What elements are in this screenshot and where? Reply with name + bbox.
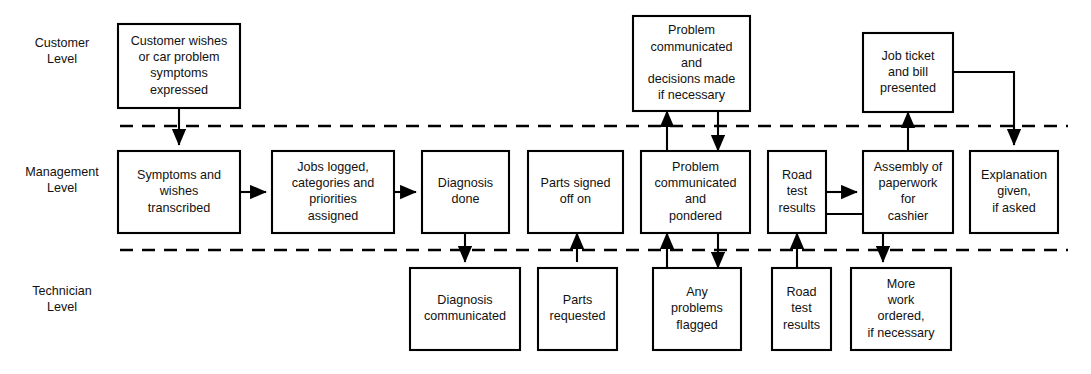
- node-label-line: done: [451, 192, 479, 206]
- node-label-line: Road: [786, 285, 816, 299]
- node-label-line: priorities: [309, 192, 357, 206]
- node-label-line: and: [685, 192, 706, 206]
- node-label-line: More: [887, 277, 916, 291]
- node-label-line: Diagnosis: [437, 293, 492, 307]
- node-label-line: Job ticket: [881, 49, 935, 63]
- node-label-line: test: [787, 184, 808, 198]
- node-label-line: work: [887, 293, 915, 307]
- node-label-line: expressed: [150, 83, 208, 97]
- node-label-line: if necessary: [867, 326, 935, 340]
- node-label-line: test: [791, 301, 812, 315]
- node-label-line: Parts: [563, 293, 592, 307]
- node-label-line: if necessary: [658, 88, 726, 102]
- lane-label-line2: Level: [47, 300, 77, 314]
- node-label-line: Jobs logged,: [297, 160, 368, 174]
- node-label-line: Symptoms and: [137, 168, 221, 182]
- process-nodes: Customer wishesor car problemsymptomsexp…: [118, 16, 1058, 350]
- node-label-line: communicated: [424, 309, 506, 323]
- process-node-symptoms-transcribed[interactable]: Symptoms andwishestranscribed: [118, 151, 240, 233]
- process-node-customer-wishes[interactable]: Customer wishesor car problemsymptomsexp…: [118, 24, 240, 108]
- node-label-line: problems: [671, 301, 723, 315]
- lane-label-management: ManagementLevel: [25, 165, 99, 195]
- node-label-line: cashier: [888, 209, 929, 223]
- lane-label-line1: Technician: [32, 284, 92, 298]
- node-label-line: presented: [880, 81, 936, 95]
- node-label-line: Diagnosis: [438, 176, 493, 190]
- node-label-line: and: [681, 56, 702, 70]
- node-label-line: Assembly of: [874, 160, 943, 174]
- lane-label-line2: Level: [47, 181, 77, 195]
- node-label-line: given,: [997, 184, 1031, 198]
- lane-label-technician: TechnicianLevel: [32, 284, 92, 314]
- node-label-line: Road: [782, 168, 812, 182]
- lane-labels: CustomerLevelManagementLevelTechnicianLe…: [25, 36, 99, 314]
- node-label-line: requested: [549, 309, 605, 323]
- node-label-line: results: [783, 318, 820, 332]
- node-label-line: categories and: [292, 176, 375, 190]
- node-label-line: ordered,: [878, 309, 925, 323]
- process-node-parts-requested[interactable]: Partsrequested: [538, 268, 617, 350]
- process-node-assembly-paperwork[interactable]: Assembly ofpaperworkforcashier: [863, 151, 953, 233]
- node-label-line: communicated: [655, 176, 737, 190]
- flowchart-canvas: Customer wishesor car problemsymptomsexp…: [0, 0, 1091, 374]
- node-label-line: Any: [686, 285, 708, 299]
- lane-label-customer: CustomerLevel: [35, 36, 90, 66]
- flowchart-svg: Customer wishesor car problemsymptomsexp…: [0, 0, 1091, 374]
- job-ticket-to-explanation: [953, 72, 1014, 145]
- process-node-job-ticket-bill[interactable]: Job ticketand billpresented: [863, 33, 953, 112]
- node-label-line: for: [901, 192, 916, 206]
- process-node-explanation-given[interactable]: Explanationgiven,if asked: [970, 151, 1058, 233]
- process-node-diagnosis-communicated[interactable]: Diagnosiscommunicated: [410, 268, 520, 350]
- node-label-line: Problem: [668, 23, 715, 37]
- process-node-road-test-results-tech[interactable]: Roadtestresults: [772, 268, 831, 350]
- process-node-parts-signed-off[interactable]: Parts signedoff on: [528, 151, 623, 233]
- node-label-line: wishes: [159, 184, 199, 198]
- process-node-diagnosis-done[interactable]: Diagnosisdone: [422, 151, 509, 233]
- node-label-line: paperwork: [879, 176, 939, 190]
- node-label-line: Customer wishes: [131, 34, 228, 48]
- node-label-line: and bill: [888, 65, 928, 79]
- node-label-line: Parts signed: [540, 176, 610, 190]
- lane-label-line2: Level: [47, 52, 77, 66]
- lane-label-line1: Management: [25, 165, 99, 179]
- node-label-line: or car problem: [138, 50, 219, 64]
- node-label-line: transcribed: [148, 201, 210, 215]
- node-label-line: Explanation: [981, 168, 1047, 182]
- node-label-line: Problem: [672, 160, 719, 174]
- process-node-problem-communicated-pondered[interactable]: Problemcommunicatedandpondered: [641, 151, 750, 233]
- node-label-line: symptoms: [150, 66, 207, 80]
- node-label-line: results: [778, 201, 815, 215]
- node-label-line: decisions made: [648, 72, 736, 86]
- node-label-line: off on: [560, 192, 591, 206]
- node-label-line: assigned: [308, 209, 358, 223]
- process-node-more-work-ordered[interactable]: Moreworkordered,if necessary: [851, 268, 951, 350]
- node-label-line: if asked: [992, 201, 1035, 215]
- process-node-problem-communicated-decisions[interactable]: Problemcommunicatedanddecisions madeif n…: [633, 16, 750, 111]
- node-label-line: pondered: [669, 209, 722, 223]
- node-label-line: flagged: [676, 318, 717, 332]
- process-node-any-problems-flagged[interactable]: Anyproblemsflagged: [653, 268, 741, 350]
- process-node-jobs-logged[interactable]: Jobs logged,categories andprioritiesassi…: [272, 151, 394, 233]
- lane-label-line1: Customer: [35, 36, 90, 50]
- process-node-road-test-results-mgmt[interactable]: Roadtestresults: [768, 151, 826, 233]
- node-label-line: communicated: [651, 40, 733, 54]
